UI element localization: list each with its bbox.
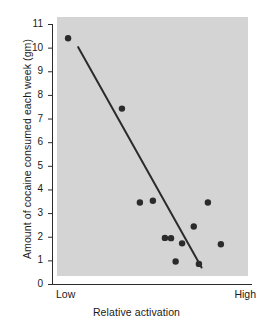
- data-point: [168, 235, 174, 241]
- y-tick-label: 0: [25, 279, 43, 289]
- y-tick-label: 9: [25, 66, 43, 76]
- data-point: [179, 240, 185, 246]
- y-tick-label: 10: [25, 43, 43, 53]
- y-tick-label: 2: [25, 232, 43, 242]
- data-point: [196, 261, 202, 267]
- y-tick-label: 3: [25, 208, 43, 218]
- data-point: [205, 199, 211, 205]
- y-tick-label: 11: [25, 19, 43, 29]
- data-point: [119, 105, 125, 111]
- scatter-plot-figure: Amount of cocaine consumed each week (gm…: [0, 0, 273, 327]
- data-point: [65, 35, 71, 41]
- y-tick-label: 7: [25, 114, 43, 124]
- data-point: [137, 199, 143, 205]
- y-tick-label: 4: [25, 184, 43, 194]
- data-point: [162, 235, 168, 241]
- data-point: [150, 198, 156, 204]
- plot-area-background: [57, 17, 248, 276]
- data-point: [191, 223, 197, 229]
- y-tick-label: 1: [25, 255, 43, 265]
- y-tick-label: 6: [25, 137, 43, 147]
- data-point: [218, 241, 224, 247]
- data-point: [172, 258, 178, 264]
- y-tick-label: 5: [25, 161, 43, 171]
- y-tick-label: 8: [25, 90, 43, 100]
